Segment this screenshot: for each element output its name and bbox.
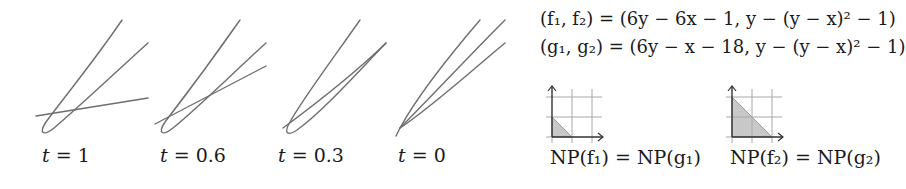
panel-t0	[396, 20, 505, 136]
homotopy-curves	[36, 20, 505, 136]
equation-f-rhs: (6y − 6x − 1, y − (y − x)² − 1)	[620, 8, 896, 29]
curve-t06-1	[155, 66, 266, 124]
curve-t1-1	[36, 98, 148, 116]
equation-f: (f₁, f₂) = (6y − 6x − 1, y − (y − x)² − …	[540, 8, 896, 29]
curve-t1-0	[42, 20, 148, 133]
curve-t0-1	[400, 20, 505, 128]
panel-t03	[283, 20, 386, 133]
panel-label-t03: t = 0.3	[278, 144, 344, 166]
panel-t1	[36, 20, 148, 133]
panel-label-t1: t = 1	[42, 144, 90, 166]
panel-t06	[155, 20, 266, 133]
np2-caption: NP(f₂) = NP(g₂)	[730, 146, 881, 168]
curve-t0-2	[400, 43, 505, 128]
newton-polygon-fill	[552, 117, 572, 137]
np2-diagram	[726, 86, 783, 143]
np1-caption: NP(f₁) = NP(g₁)	[550, 146, 701, 168]
newton-polygons	[546, 86, 783, 143]
equation-g-rhs: (6y − x − 18, y − (y − x)² − 1)	[630, 36, 906, 57]
np1-diagram	[546, 86, 603, 143]
equation-g-lhs: (g₁, g₂)	[540, 36, 603, 57]
panel-label-t0: t = 0	[398, 144, 446, 166]
panel-label-t06: t = 0.6	[160, 144, 226, 166]
curve-t06-0	[161, 20, 266, 133]
equation-f-lhs: (f₁, f₂)	[540, 8, 593, 29]
equation-g: (g₁, g₂) = (6y − x − 18, y − (y − x)² − …	[540, 36, 906, 57]
curve-t03-0	[287, 20, 386, 133]
